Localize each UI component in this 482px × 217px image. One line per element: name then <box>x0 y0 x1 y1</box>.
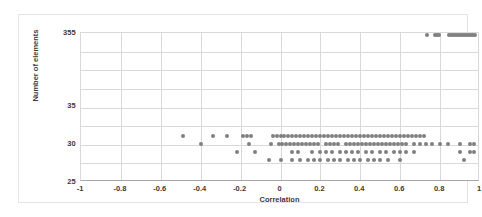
data-point <box>290 150 294 154</box>
data-point <box>392 150 396 154</box>
x-axis-tick-label: 0.4 <box>339 184 379 193</box>
data-point <box>279 158 283 162</box>
x-axis-tick-label: -0.2 <box>220 184 260 193</box>
data-point <box>372 158 376 162</box>
vertical-gridline <box>121 33 122 180</box>
data-point <box>245 134 249 138</box>
data-point <box>253 150 257 154</box>
x-axis-tick-label: -0.4 <box>180 184 220 193</box>
data-point <box>398 150 402 154</box>
vertical-gridline <box>440 33 441 180</box>
data-point <box>472 142 476 146</box>
vertical-gridline <box>241 33 242 180</box>
y-axis-labels: Number of elements 355353025 <box>19 15 76 204</box>
data-point <box>211 134 215 138</box>
data-point <box>398 158 402 162</box>
data-point <box>366 158 370 162</box>
data-point <box>473 33 477 37</box>
data-point <box>225 134 229 138</box>
data-point <box>247 142 251 146</box>
data-point <box>386 158 390 162</box>
data-point <box>346 158 350 162</box>
horizontal-gridline <box>81 163 478 164</box>
x-axis-labels: -1-0.8-0.6-0.4-0.200.20.40.60.81 <box>80 182 479 196</box>
data-point <box>306 158 310 162</box>
data-point <box>350 150 354 154</box>
x-axis-tick-label: 0.8 <box>419 184 459 193</box>
horizontal-gridline <box>81 89 478 90</box>
data-point <box>422 134 426 138</box>
x-axis-tick-label: 0.6 <box>379 184 419 193</box>
data-point <box>290 158 294 162</box>
x-axis-tick-label: -0.6 <box>140 184 180 193</box>
data-point <box>384 150 388 154</box>
data-point <box>344 150 348 154</box>
data-point <box>364 150 368 154</box>
x-axis-title: Correlation <box>80 195 479 204</box>
data-point <box>332 158 336 162</box>
data-point <box>378 150 382 154</box>
horizontal-gridline <box>81 70 478 71</box>
data-point <box>338 150 342 154</box>
data-point <box>298 158 302 162</box>
y-axis-tick-label: 35 <box>36 101 76 110</box>
data-point <box>235 150 239 154</box>
data-point <box>310 150 314 154</box>
data-point <box>318 150 322 154</box>
x-axis-tick-label: 0.2 <box>299 184 339 193</box>
data-point <box>199 142 203 146</box>
data-point <box>267 158 271 162</box>
x-axis-tick-label: -0.8 <box>100 184 140 193</box>
data-point <box>404 150 408 154</box>
horizontal-gridline <box>81 108 478 109</box>
data-point <box>378 158 382 162</box>
data-point <box>181 134 185 138</box>
x-axis-tick-label: 0 <box>260 184 300 193</box>
data-point <box>462 158 466 162</box>
x-axis-tick-label: -1 <box>60 184 100 193</box>
data-point <box>271 134 275 138</box>
data-point <box>352 158 356 162</box>
data-point <box>458 150 462 154</box>
data-point <box>358 158 362 162</box>
x-axis-tick-label: 1 <box>459 184 482 193</box>
data-point <box>338 158 342 162</box>
y-axis-tick-label: 30 <box>36 139 76 148</box>
horizontal-gridline <box>81 52 478 53</box>
data-point <box>275 134 279 138</box>
plot-area <box>80 32 479 181</box>
y-axis-tick-label: 355 <box>36 28 76 37</box>
vertical-gridline <box>201 33 202 180</box>
data-point <box>412 150 416 154</box>
data-point <box>318 158 322 162</box>
data-point <box>312 158 316 162</box>
data-point <box>425 33 429 37</box>
chart-frame: Number of elements 355353025 -1-0.8-0.6-… <box>18 14 468 203</box>
data-point <box>249 134 253 138</box>
data-point <box>326 158 330 162</box>
vertical-gridline <box>161 33 162 180</box>
data-point <box>241 134 245 138</box>
data-point <box>330 150 334 154</box>
data-point <box>472 150 476 154</box>
data-point <box>269 142 273 146</box>
data-point <box>370 150 374 154</box>
data-point <box>296 150 300 154</box>
horizontal-gridline <box>81 126 478 127</box>
data-point <box>324 150 328 154</box>
